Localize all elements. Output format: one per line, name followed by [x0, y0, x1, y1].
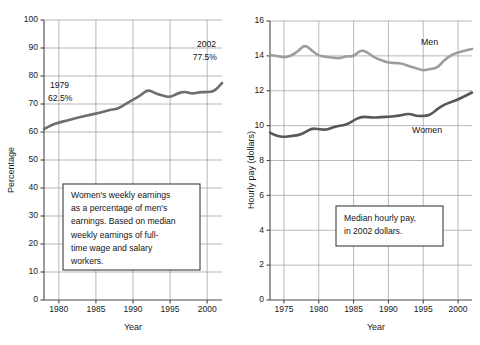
callout-line: weekly earnings of full- [70, 230, 159, 240]
figure-root: 0102030405060708090100 19801985199019952… [0, 0, 480, 345]
x-tick-label: 1990 [124, 304, 143, 314]
y-tick-label: 2 [259, 259, 264, 269]
x-tick-label: 1985 [344, 304, 363, 314]
right-y-axis-title: Hourly pay (dollars) [246, 131, 256, 209]
y-tick-label: 90 [29, 42, 39, 52]
left-annotation-end-year: 2002 [197, 39, 216, 49]
left-y-axis-title: Percentage [6, 147, 16, 193]
x-tick-label: 1990 [379, 304, 398, 314]
y-tick-label: 4 [259, 225, 264, 235]
x-tick-label: 1995 [161, 304, 180, 314]
x-tick-label: 1980 [49, 304, 68, 314]
left-y-tick-labels: 0102030405060708090100 [24, 14, 38, 304]
callout-line: workers. [70, 256, 103, 266]
left-x-axis-title: Year [124, 322, 142, 332]
right-series-label-women: Women [412, 125, 442, 135]
right-chart-svg: 0246810121416 197519801985199019952000 M… [240, 0, 480, 345]
right-series-men-line [270, 46, 472, 70]
y-tick-label: 60 [29, 126, 39, 136]
x-tick-label: 1980 [309, 304, 328, 314]
right-x-axis-title: Year [367, 322, 385, 332]
y-tick-label: 10 [29, 266, 39, 276]
x-tick-label: 1995 [414, 304, 433, 314]
callout-line: in 2002 dollars. [344, 226, 402, 236]
y-tick-label: 40 [29, 182, 39, 192]
callout-line: as a percentage of men's [71, 203, 167, 213]
left-x-tick-labels: 19801985199019952000 [49, 304, 217, 314]
y-tick-label: 6 [259, 190, 264, 200]
callout-line: Median hourly pay, [344, 213, 416, 223]
y-tick-label: 70 [29, 98, 39, 108]
left-annotation-end-value: 77.5% [193, 52, 218, 62]
left-chart-svg: 0102030405060708090100 19801985199019952… [0, 0, 240, 345]
y-tick-label: 8 [259, 155, 264, 165]
right-tick-marks [267, 21, 459, 304]
y-tick-label: 14 [255, 50, 265, 60]
right-series-label-men: Men [421, 37, 438, 47]
y-tick-label: 0 [259, 294, 264, 304]
right-chart-panel: 0246810121416 197519801985199019952000 M… [240, 0, 480, 345]
y-tick-label: 10 [255, 120, 265, 130]
left-annotation-start-value: 62.5% [48, 93, 73, 103]
y-tick-label: 20 [29, 238, 39, 248]
callout-line: earnings. Based on median [71, 216, 176, 226]
y-tick-label: 12 [255, 85, 265, 95]
left-annotation-start-year: 1979 [50, 80, 69, 90]
y-tick-label: 16 [255, 15, 265, 25]
left-chart-panel: 0102030405060708090100 19801985199019952… [0, 0, 240, 345]
callout-line: time wage and salary [71, 243, 153, 253]
callout-line: Women's weekly earnings [71, 190, 170, 200]
right-x-tick-labels: 197519801985199019952000 [274, 304, 467, 314]
y-tick-label: 50 [29, 154, 39, 164]
y-tick-label: 80 [29, 70, 39, 80]
y-tick-label: 0 [33, 294, 38, 304]
x-tick-label: 1975 [274, 304, 293, 314]
x-tick-label: 2000 [449, 304, 468, 314]
x-tick-label: 2000 [198, 304, 217, 314]
y-tick-label: 30 [29, 210, 39, 220]
x-tick-label: 1985 [86, 304, 105, 314]
y-tick-label: 100 [24, 14, 38, 24]
